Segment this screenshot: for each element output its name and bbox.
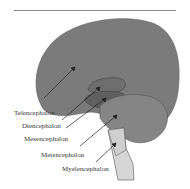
label-telencephalon: Telencephalon <box>14 109 55 117</box>
label-metencephalon: Metencephalon <box>41 151 84 159</box>
label-diencephalon: Diencephalon <box>22 122 61 130</box>
brain-diagram <box>0 0 190 189</box>
label-mesencephalon: Mesencephalon <box>24 135 68 143</box>
label-myelencephalon: Myelencephalon <box>62 165 109 173</box>
